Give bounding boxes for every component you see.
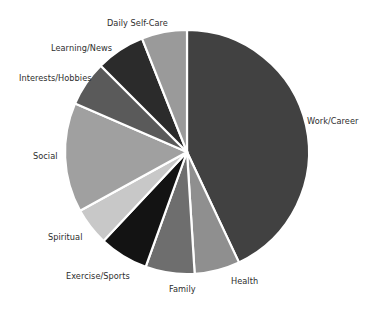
pie-label-work-career: Work/Career (307, 117, 358, 125)
pie-label-social: Social (33, 152, 58, 160)
pie-label-spiritual: Spiritual (48, 233, 82, 241)
pie-label-health: Health (231, 277, 258, 285)
pie-slices-group (65, 30, 309, 274)
pie-label-learning-news: Learning/News (51, 44, 112, 52)
pie-label-interests-hobbies: Interests/Hobbies (19, 74, 92, 82)
pie-label-daily-self-care: Daily Self-Care (107, 19, 168, 27)
pie-chart: Work/CareerHealthFamilyExercise/SportsSp… (0, 0, 374, 309)
pie-label-exercise-sports: Exercise/Sports (66, 272, 130, 280)
pie-label-family: Family (169, 285, 196, 293)
